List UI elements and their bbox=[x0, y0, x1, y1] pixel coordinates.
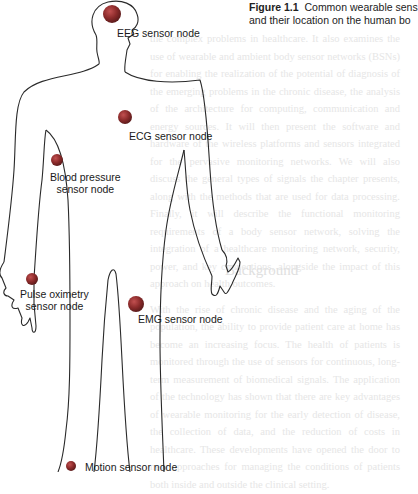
body-outline bbox=[0, 1, 240, 472]
eeg-sensor-node-icon bbox=[103, 5, 121, 23]
pulse-oximetry-label-line-2: sensor node bbox=[20, 300, 89, 312]
motion-sensor-label: Motion sensor node bbox=[85, 461, 177, 473]
motion-sensor-node-icon bbox=[66, 461, 76, 471]
eeg-sensor-label: EEG sensor node bbox=[117, 27, 200, 39]
blood-pressure-label-line-1: Blood pressure bbox=[50, 171, 121, 183]
blood-pressure-label-line-2: sensor node bbox=[50, 183, 121, 195]
emg-sensor-node-icon bbox=[128, 296, 144, 312]
pulse-oximetry-sensor-label: Pulse oximetry sensor node bbox=[20, 288, 89, 312]
emg-sensor-label: EMG sensor node bbox=[138, 313, 223, 325]
ecg-sensor-node-icon bbox=[118, 110, 132, 124]
ecg-sensor-label: ECG sensor node bbox=[129, 130, 212, 142]
pulse-oximetry-sensor-node-icon bbox=[26, 273, 38, 285]
pulse-oximetry-label-line-1: Pulse oximetry bbox=[20, 288, 89, 300]
blood-pressure-sensor-node-icon bbox=[51, 154, 63, 166]
blood-pressure-sensor-label: Blood pressure sensor node bbox=[50, 171, 121, 195]
